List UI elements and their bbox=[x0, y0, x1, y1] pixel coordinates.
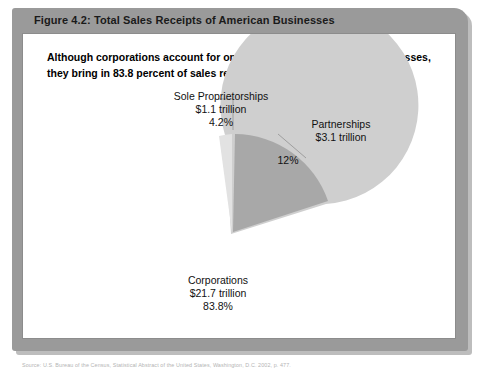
pie-chart: Sole Proprietorships $1.1 trillion 4.2% … bbox=[23, 34, 457, 340]
figure-container: Figure 4.2: Total Sales Receipts of Amer… bbox=[0, 0, 483, 374]
figure-title: Figure 4.2: Total Sales Receipts of Amer… bbox=[34, 14, 335, 26]
figure-frame: Figure 4.2: Total Sales Receipts of Amer… bbox=[12, 8, 468, 351]
partnerships-value: $3.1 trillion bbox=[281, 131, 401, 144]
sole-value: $1.1 trillion bbox=[151, 103, 291, 116]
label-sole-proprietorships: Sole Proprietorships $1.1 trillion 4.2% bbox=[151, 90, 291, 129]
figure-title-bar: Figure 4.2: Total Sales Receipts of Amer… bbox=[12, 8, 468, 34]
label-corporations: Corporations $21.7 trillion 83.8% bbox=[133, 274, 303, 313]
partnerships-name: Partnerships bbox=[281, 118, 401, 131]
sole-name: Sole Proprietorships bbox=[151, 90, 291, 103]
corporations-value: $21.7 trillion bbox=[133, 287, 303, 300]
figure-panel: Although corporations account for only a… bbox=[22, 33, 456, 339]
source-note: Source: U.S. Bureau of the Census, Stati… bbox=[22, 362, 472, 368]
label-partnerships: Partnerships $3.1 trillion bbox=[281, 118, 401, 144]
pie-slice-sole-proprietorships bbox=[219, 134, 232, 233]
label-partnerships-percent: 12% bbox=[263, 154, 313, 167]
sole-percent: 4.2% bbox=[151, 116, 291, 129]
corporations-percent: 83.8% bbox=[133, 300, 303, 313]
corporations-name: Corporations bbox=[133, 274, 303, 287]
